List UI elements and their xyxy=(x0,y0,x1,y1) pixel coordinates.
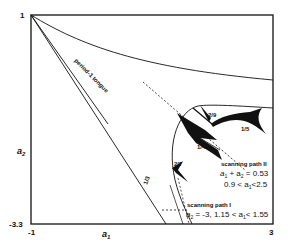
x-max-label: 3 xyxy=(269,228,274,237)
x-min-label: -1 xyxy=(28,228,36,237)
tongue-1-4-label: 1/4 xyxy=(197,144,206,150)
scanning-path-2-range: 0.9 < a1<2.5 xyxy=(224,180,268,190)
bifurcation-diagram: 1 -3.3 -1 3 a2 a1 period-1 tongue 1/3 2/… xyxy=(0,0,289,248)
scanning-path-1-title: scanning path I xyxy=(187,202,231,208)
tongue-lower-boundary xyxy=(31,15,108,124)
scanning-path-1-equation: a2 = -3, 1.15 < a1< 1.55 xyxy=(186,210,269,220)
y-min-label: -3.3 xyxy=(9,220,23,229)
y-max-label: 1 xyxy=(20,11,25,20)
x-axis-label: a1 xyxy=(102,229,111,240)
tongue-2-7-label: 2/7 xyxy=(174,161,183,167)
scanning-path-2-equation: a1 + a2 = 0.53 xyxy=(220,169,269,179)
tongue-1-5-label: 1/5 xyxy=(241,126,250,132)
y-axis-label: a2 xyxy=(17,146,26,157)
tongue-2-9-label: 2/9 xyxy=(208,112,217,118)
diagonal-boundary xyxy=(31,15,166,224)
tongue-upper-boundary xyxy=(31,15,273,80)
tongue-1-4-shape xyxy=(177,113,222,160)
tongue-1-5-shape xyxy=(211,108,266,134)
tongue-1-3-label: 1/3 xyxy=(142,175,151,186)
scanning-path-2-title: scanning path II xyxy=(221,161,267,167)
